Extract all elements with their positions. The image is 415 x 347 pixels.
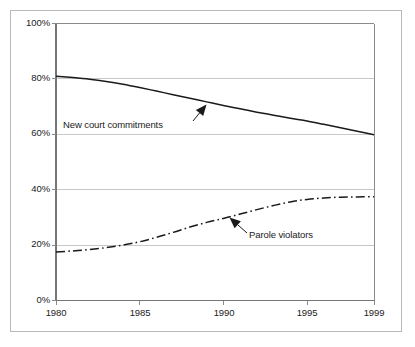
- data-series: [56, 76, 374, 252]
- plot-area: [0, 0, 415, 347]
- axis-ticks: [52, 24, 374, 305]
- chart-container: 100% 80% 60% 40% 20% 0% 1980 1985 1990 1…: [0, 0, 415, 347]
- axis-lines: [56, 24, 374, 301]
